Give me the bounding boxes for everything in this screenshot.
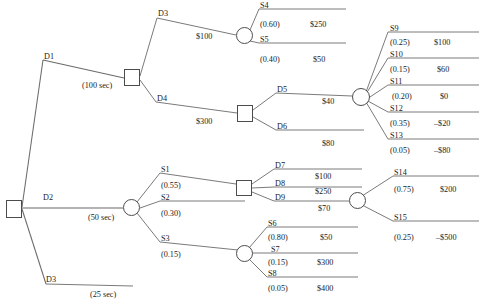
branch-prob-s2: (0.30) [161,210,181,218]
branch-prob-s3: (0.15) [161,251,181,259]
branch-payoff-s8: $400 [317,285,333,293]
branch-label-s8: S8 [268,270,277,278]
edge-root-d3 [22,209,46,284]
decision-node-root[interactable] [6,200,22,218]
branch-prob-s9: (0.25) [390,39,410,47]
branch-payoff-s11: $0 [440,93,448,101]
branch-payoff-d5: $40 [322,98,334,106]
branch-label-s7: S7 [271,246,280,254]
edge-c9-s10 [366,58,388,94]
branch-label-d4: D4 [157,95,167,103]
branch-label-s3: S3 [161,235,170,243]
branch-label-s1: S1 [161,166,170,174]
chance-node-s1-s3[interactable] [123,199,140,216]
branch-label-s14: S14 [394,169,407,177]
branch-label-d2: D2 [43,194,53,202]
branch-payoff-s5: $50 [313,56,325,64]
branch-label-d3: D3 [46,276,56,284]
branch-label-s11: S11 [390,78,402,86]
branch-payoff-d6: $80 [322,140,334,148]
edge-c1-s2 [140,201,160,208]
edge-d7dec-d8 [252,187,274,188]
edge-d1dec-d4 [140,80,156,102]
branch-prob-s5: (0.40) [260,56,280,64]
edge-c1-s1 [137,173,160,202]
branch-prob-s6: (0.80) [268,234,288,242]
edge-c9-s12 [366,100,388,112]
branch-label-d7: D7 [275,162,285,170]
branch-prob-s7: (0.15) [268,259,288,267]
branch-label-s6: S6 [268,220,277,228]
decision-node-d7-d9[interactable] [236,180,252,196]
branch-payoff-s15: –$500 [436,234,456,242]
branch-payoff-s12: –$20 [434,120,450,128]
branch-label-s13: S13 [390,132,403,140]
chance-node-s14-s15[interactable] [349,192,366,209]
branch-payoff-s14: $200 [440,186,456,194]
branch-label-d1: D1 [44,53,54,61]
branch-payoff-s13: –$80 [434,147,450,155]
edge-d7dec-d7 [252,169,274,184]
edge-c6-s8 [249,259,267,277]
branch-label-s2: S2 [161,194,170,202]
branch-payoff-d7: $100 [315,173,331,181]
branch-payoff-d8: $250 [315,188,331,196]
branch-label-d8: D8 [275,180,285,188]
branch-label-s10: S10 [390,51,403,59]
branch-payoff-s6: $50 [320,234,332,242]
edge-c1-s3 [137,213,160,242]
branch-prob-s13: (0.05) [390,147,410,155]
branch-prob-s15: (0.25) [394,234,414,242]
branch-prob-s11: (0.20) [392,93,412,101]
decision-node-d1[interactable] [124,69,140,86]
edge-c6-s6 [249,227,267,248]
chance-node-s9-s13[interactable] [352,88,370,106]
branch-label-d5: D5 [277,86,287,94]
branch-label-d6: D6 [277,123,287,131]
edge-c4-s5 [250,41,259,43]
branch-prob-s8: (0.05) [268,285,288,293]
chance-node-s4-s5[interactable] [236,27,253,44]
edge-s3-horizontal [160,242,238,250]
branch-label-s12: S12 [390,105,403,113]
edge-d3-horizontal [46,284,133,286]
edge-c14-s14 [362,176,393,196]
branch-label-d9: D9 [275,194,285,202]
edge-c9-s11 [370,85,388,97]
branch-label-s15: S15 [394,214,407,222]
branch-label-d3b: D3 [158,10,168,18]
edge-root-d1 [22,60,43,207]
chance-node-s6-s8[interactable] [236,245,253,262]
decision-node-d5-d6[interactable] [237,105,253,122]
branch-prob-s12: (0.35) [390,120,410,128]
branch-label-s4: S4 [260,2,269,10]
branch-prob-s4: (0.60) [260,21,280,29]
branch-label-d1-time: (100 sec) [82,82,112,90]
branch-payoff-s10: $60 [437,66,449,74]
edge-d4-horizontal [156,102,237,113]
edge-d5dec-d5 [253,93,276,110]
branch-payoff-d3b: $100 [196,33,212,41]
edge-d7dec-d9 [252,192,274,201]
branch-payoff-d9: $70 [318,205,330,213]
edge-c4-s4 [250,9,259,30]
branch-prob-s14: (0.75) [394,186,414,194]
branch-label-d2-time: (50 sec) [88,214,114,222]
branch-payoff-s7: $300 [317,259,333,267]
branch-payoff-s9: $100 [434,39,450,47]
edge-d5dec-d6 [253,117,276,130]
branch-prob-s1: (0.55) [161,182,181,190]
branch-label-s5: S5 [260,36,269,44]
edge-c14-s15 [362,205,393,221]
edge-d1-horizontal [43,60,124,78]
branch-payoff-d4: $300 [196,118,212,126]
branch-payoff-s4: $250 [310,21,326,29]
edge-d1dec-d3 [140,18,157,76]
edge-d5-horizontal [276,93,352,96]
branch-label-s9: S9 [390,25,399,33]
decision-tree-diagram: D1 (100 sec) D2 (50 sec) D3 (25 sec) D3 … [0,0,479,307]
edge-c9-s13 [366,102,388,139]
branch-label-d3-time: (25 sec) [90,291,116,299]
edge-c9-s9 [366,32,388,92]
branch-prob-s10: (0.15) [390,66,410,74]
